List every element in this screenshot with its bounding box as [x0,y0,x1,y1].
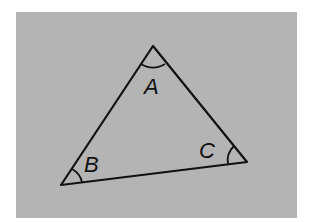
vertex-label-c: C [199,138,215,163]
angle-arc-c [228,146,234,164]
triangle-diagram: A B C [0,0,312,222]
angle-arc-a [141,64,165,68]
vertex-label-a: A [142,74,159,99]
vertex-label-b: B [84,152,99,177]
angle-arc-b [72,169,82,182]
